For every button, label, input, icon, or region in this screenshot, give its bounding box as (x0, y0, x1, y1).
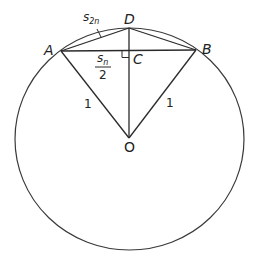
label-b: B (202, 41, 212, 57)
label-sn-numerator: sn (97, 51, 108, 67)
sn-subscript: n (103, 58, 108, 67)
chord-ad (61, 28, 129, 51)
geometry-diagram: A B C D O s2n sn 2 1 1 (0, 0, 256, 262)
label-a: A (43, 42, 54, 58)
label-sn-denominator: 2 (99, 68, 107, 82)
s2n-subscript: 2n (89, 17, 99, 26)
label-radius-left: 1 (84, 97, 92, 111)
right-angle-marker (122, 51, 129, 58)
label-c: C (133, 51, 143, 67)
label-s2n: s2n (83, 10, 99, 26)
radius-oa (61, 51, 129, 138)
chord-db (129, 28, 196, 50)
label-d: D (124, 11, 135, 27)
label-radius-right: 1 (166, 96, 174, 110)
label-o: O (124, 139, 135, 155)
